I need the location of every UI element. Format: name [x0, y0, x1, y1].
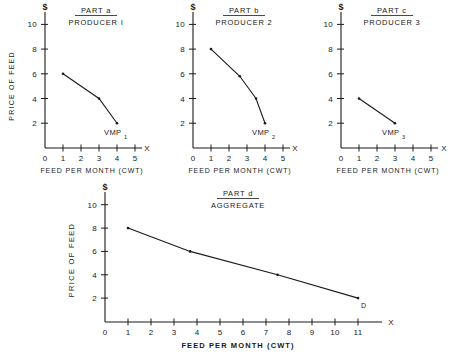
x-tick-label: 4 [411, 154, 416, 163]
x-tick-label: 2 [149, 328, 154, 337]
panel-part-c: 10 8 6 4 2 0 1 2 3 4 5 $ X PART c PRODUC… [296, 0, 458, 178]
y-tick-label: 6 [92, 247, 97, 256]
y-tick-label: 10 [28, 20, 38, 29]
y-tick-label: 4 [180, 95, 185, 104]
x-tick-label: 5 [429, 154, 434, 163]
part-label: PART a [81, 6, 111, 15]
y-tick-label: 4 [328, 95, 333, 104]
x-tick-label: 5 [218, 328, 223, 337]
x-axis-title: FEED PER MONTH (CWT) [181, 341, 294, 350]
x-axis-title: FEED PER MONTH (CWT) [336, 167, 439, 175]
x-tick-label: 1 [126, 328, 131, 337]
x-tick-label: 4 [115, 154, 120, 163]
x-axis-end-mark: X [388, 318, 394, 327]
x-axis-title: FEED PER MONTH (CWT) [188, 167, 291, 175]
y-tick-label: 2 [180, 119, 185, 128]
demand-curve [128, 228, 358, 298]
x-tick-label: 7 [264, 328, 269, 337]
aggregate-label: AGGREGATE [211, 201, 265, 210]
dollar-symbol: $ [338, 2, 343, 12]
x-tick-label: 0 [339, 154, 344, 163]
y-tick-label: 10 [88, 201, 98, 210]
x-tick-label: 5 [133, 154, 138, 163]
x-tick-label: 8 [287, 328, 292, 337]
curve-label: VMP [382, 128, 399, 137]
vmp-curve [63, 74, 117, 123]
y-tick-label: 2 [328, 119, 333, 128]
x-tick-label: 0 [191, 154, 196, 163]
x-tick-label: 1 [209, 154, 214, 163]
x-tick-label: 3 [393, 154, 398, 163]
y-tick-label: 10 [176, 20, 186, 29]
data-point-markers [62, 73, 119, 125]
chart-part-b: 10 8 6 4 2 0 1 2 3 4 5 $ X PART b PRODUC… [148, 0, 300, 178]
part-label: PART b [229, 6, 259, 15]
y-tick-label: 8 [328, 45, 333, 54]
y-tick-label: 8 [92, 224, 97, 233]
part-label: PART c [377, 6, 407, 15]
panel-part-a: 10 8 6 4 2 0 1 2 3 4 5 $ X PART a PRODUC… [0, 0, 152, 178]
producer-label: PRODUCER 3 [363, 18, 420, 27]
y-axis-title: PRICE OF FEED [67, 223, 76, 297]
curve-label-subscript: 3 [402, 134, 405, 140]
x-tick-label: 1 [61, 154, 66, 163]
y-tick-label: 4 [92, 271, 97, 280]
x-axis-title: FEED PER MONTH (CWT) [40, 167, 143, 175]
x-tick-label: 5 [281, 154, 286, 163]
y-tick-label: 8 [180, 45, 185, 54]
x-tick-label: 2 [375, 154, 380, 163]
vmp-curve [211, 49, 265, 123]
vmp-curve [359, 99, 395, 124]
curve-label: VMP [252, 128, 269, 137]
y-tick-label: 6 [32, 70, 37, 79]
x-tick-label: 4 [263, 154, 268, 163]
x-tick-label: 9 [310, 328, 315, 337]
y-axis-title: PRICE OF FEED [8, 51, 15, 120]
chart-part-a: 10 8 6 4 2 0 1 2 3 4 5 $ X PART a PRODUC… [0, 0, 152, 178]
x-tick-label: 4 [195, 328, 200, 337]
y-tick-label: 2 [92, 294, 97, 303]
y-tick-label: 8 [32, 45, 37, 54]
curve-label: VMP [104, 128, 121, 137]
panel-part-b: 10 8 6 4 2 0 1 2 3 4 5 $ X PART b PRODUC… [148, 0, 300, 178]
x-tick-label: 3 [172, 328, 177, 337]
x-tick-label: 3 [97, 154, 102, 163]
dollar-symbol: $ [102, 182, 107, 192]
x-tick-label: 10 [330, 328, 340, 337]
x-tick-label: 3 [245, 154, 250, 163]
y-tick-label: 4 [32, 95, 37, 104]
x-axis-end-mark: X [441, 144, 447, 153]
y-tick-label: 6 [328, 70, 333, 79]
producer-label: PRODUCER 2 [215, 18, 272, 27]
y-tick-label: 6 [180, 70, 185, 79]
panel-part-d: 10 8 6 4 2 0 1 2 3 4 5 6 7 8 9 10 11 $ X… [60, 182, 420, 352]
data-point-markers [210, 48, 267, 125]
chart-part-d: 10 8 6 4 2 0 1 2 3 4 5 6 7 8 9 10 11 $ X… [60, 182, 420, 352]
chart-part-c: 10 8 6 4 2 0 1 2 3 4 5 $ X PART c PRODUC… [296, 0, 458, 178]
x-tick-label: 0 [43, 154, 48, 163]
y-tick-label: 10 [324, 20, 334, 29]
curve-label-subscript: 1 [124, 134, 127, 140]
x-tick-label: 1 [357, 154, 362, 163]
dollar-symbol: $ [190, 2, 195, 12]
y-tick-label: 2 [32, 119, 37, 128]
dollar-symbol: $ [42, 2, 47, 12]
x-tick-label: 6 [241, 328, 246, 337]
curve-label-subscript: 2 [272, 134, 275, 140]
curve-label: D [361, 302, 366, 309]
x-tick-label: 2 [79, 154, 84, 163]
producer-label: PRODUCER I [68, 18, 123, 27]
part-label: PART d [223, 189, 253, 198]
x-tick-label: 2 [227, 154, 232, 163]
x-tick-label: 0 [103, 328, 108, 337]
x-tick-label: 11 [354, 328, 363, 337]
